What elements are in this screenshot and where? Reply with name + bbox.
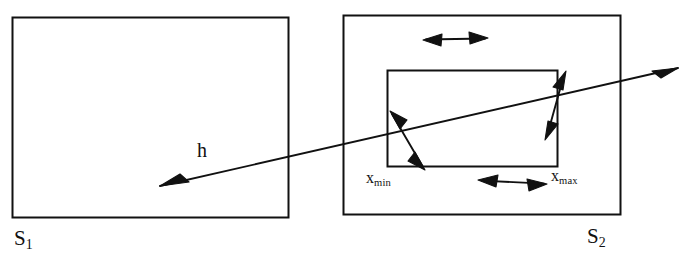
- top-double-arrow: [423, 32, 488, 46]
- label-s1-subscript: 1: [26, 237, 33, 252]
- rect-inner-bounding-box: [388, 71, 558, 167]
- label-x-max-base: x: [551, 167, 559, 184]
- label-s2-base: S: [587, 224, 599, 248]
- label-x-max: xmax: [551, 168, 578, 184]
- label-s2-subscript: 2: [599, 235, 606, 250]
- label-x-min-subscript: min: [374, 177, 391, 188]
- bottom-double-arrow: [478, 175, 547, 191]
- label-x-min: xmin: [366, 170, 391, 186]
- label-s1: S1: [14, 228, 33, 249]
- label-h: h: [197, 140, 207, 160]
- label-s2: S2: [587, 226, 606, 247]
- label-x-min-base: x: [366, 169, 374, 186]
- diagram-svg: [0, 0, 695, 262]
- label-x-max-subscript: max: [559, 175, 578, 186]
- right-diagonal-double-arrow: [545, 71, 566, 140]
- left-diagonal-double-arrow: [390, 111, 425, 170]
- figure-canvas: S1 S2 h xmin xmax: [0, 0, 695, 262]
- rect-s1: [13, 18, 289, 218]
- label-s1-base: S: [14, 226, 26, 250]
- mapping-arrow-h: [160, 68, 678, 186]
